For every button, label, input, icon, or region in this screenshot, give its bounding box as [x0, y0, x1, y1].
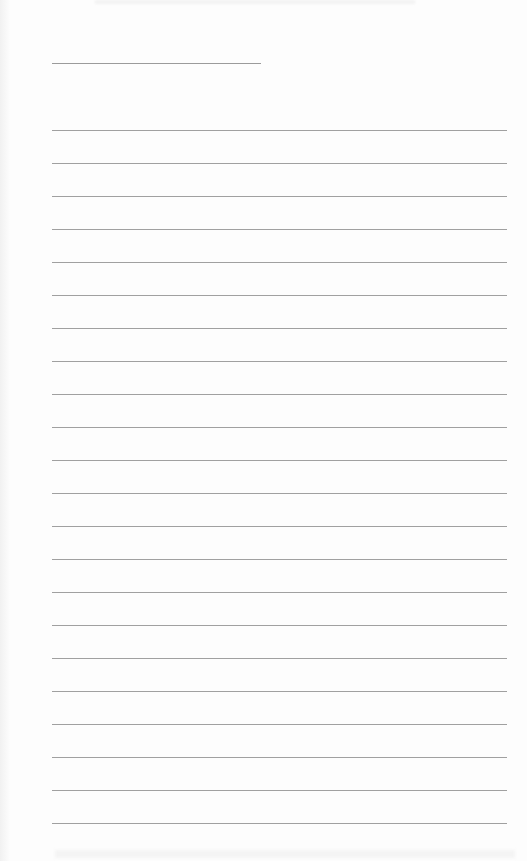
- ruled-line: [52, 559, 507, 560]
- bleed-through-text-top: [95, 0, 415, 4]
- ruled-line: [52, 163, 507, 164]
- lined-page: [0, 0, 527, 861]
- ruled-line: [52, 427, 507, 428]
- page-edge-shadow: [0, 0, 10, 861]
- bleed-through-text-bottom: [55, 850, 515, 858]
- ruled-line: [52, 361, 507, 362]
- ruled-line: [52, 658, 507, 659]
- ruled-line: [52, 196, 507, 197]
- ruled-line: [52, 328, 507, 329]
- ruled-line: [52, 394, 507, 395]
- ruled-line: [52, 625, 507, 626]
- ruled-line: [52, 493, 507, 494]
- ruled-line: [52, 691, 507, 692]
- ruled-line: [52, 130, 507, 131]
- ruled-line: [52, 724, 507, 725]
- ruled-line: [52, 262, 507, 263]
- ruled-line: [52, 823, 507, 824]
- ruled-line: [52, 592, 507, 593]
- ruled-line: [52, 460, 507, 461]
- ruled-line: [52, 757, 507, 758]
- ruled-line: [52, 790, 507, 791]
- header-name-line: [52, 63, 261, 64]
- ruled-line: [52, 229, 507, 230]
- ruled-line: [52, 526, 507, 527]
- ruled-line: [52, 295, 507, 296]
